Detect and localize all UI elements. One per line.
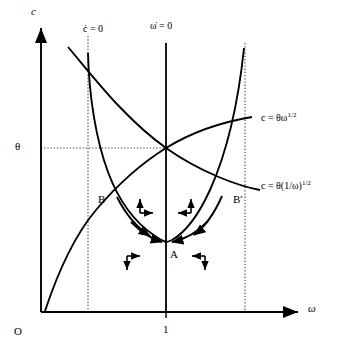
x-axis-label: ω — [308, 303, 316, 314]
curve-label-lower-base: c = θ(1/ω) — [261, 180, 302, 191]
curve-theta-inv-omega-half — [68, 47, 260, 190]
x-tick-one-label: 1 — [163, 324, 169, 335]
omega-dot-nullcline-label: ω̇ = 0 — [150, 21, 172, 31]
curve-label-upper-exponent: 1/2 — [287, 111, 296, 119]
point-label-b: B — [98, 194, 105, 205]
phase-diagram-figure: c ω θ 1 O ċ = 0 ω̇ = 0 c = θω1/2 c = θ(1… — [0, 0, 340, 349]
curve-theta-omega-half — [45, 117, 252, 311]
direction-field-upper-left — [140, 199, 153, 213]
y-tick-theta-label: θ — [15, 141, 20, 152]
point-label-a: A — [170, 249, 178, 260]
right-separatrix-branch — [166, 48, 244, 242]
curve-label-lower-exponent: 1/2 — [302, 179, 311, 187]
origin-label: O — [14, 326, 22, 337]
c-dot-nullcline-label: ċ = 0 — [83, 24, 103, 34]
point-label-b-prime: B′ — [233, 194, 243, 205]
direction-field-lower-left — [127, 256, 140, 270]
curve-label-theta-inv-omega-half: c = θ(1/ω)1/2 — [261, 180, 311, 191]
dotted-guide-lines — [41, 36, 245, 312]
curve-label-upper-base: c = θω — [261, 112, 287, 123]
phase-diagram-canvas — [0, 0, 340, 349]
y-axis-label: c — [31, 6, 36, 17]
direction-field-upper-right — [178, 199, 191, 213]
curve-label-theta-omega-half: c = θω1/2 — [261, 112, 296, 123]
direction-field-lower-right — [192, 256, 205, 270]
axes-group — [41, 28, 298, 312]
